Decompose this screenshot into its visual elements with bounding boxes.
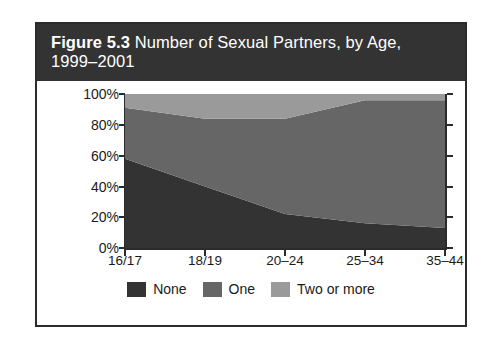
y-axis-tick bbox=[119, 247, 125, 249]
x-axis-labels: 16/1718/1920–2425–3435–44 bbox=[125, 253, 447, 273]
y-axis-tick bbox=[119, 216, 125, 218]
y-axis-tick bbox=[119, 124, 125, 126]
chart-legend: NoneOneTwo or more bbox=[37, 281, 465, 297]
y-axis-tick-label: 20% bbox=[91, 209, 119, 225]
y-axis-tick-right bbox=[447, 93, 453, 95]
y-axis-right-line bbox=[445, 94, 447, 250]
y-axis-tick-right bbox=[447, 186, 453, 188]
y-axis-tick-label: 80% bbox=[91, 117, 119, 133]
legend-swatch-icon bbox=[203, 282, 222, 297]
legend-label: One bbox=[229, 281, 255, 297]
y-axis-tick-label: 60% bbox=[91, 148, 119, 164]
x-axis-tick bbox=[204, 250, 206, 256]
legend-swatch-icon bbox=[127, 282, 146, 297]
stacked-area-plot bbox=[125, 94, 445, 248]
chart-container: 100%80%60%40%20%0% 16/1718/1920–2425–343… bbox=[37, 81, 465, 325]
figure-card: Figure 5.3 Number of Sexual Partners, by… bbox=[35, 22, 467, 327]
y-axis-tick-right bbox=[447, 247, 453, 249]
x-axis-tick bbox=[444, 250, 446, 256]
legend-item[interactable]: None bbox=[127, 281, 186, 297]
y-axis-tick-label: 100% bbox=[83, 86, 119, 102]
legend-label: Two or more bbox=[297, 281, 375, 297]
y-axis-tick bbox=[119, 155, 125, 157]
legend-label: None bbox=[153, 281, 186, 297]
y-axis-tick-right bbox=[447, 124, 453, 126]
legend-swatch-icon bbox=[271, 282, 290, 297]
legend-item[interactable]: One bbox=[203, 281, 255, 297]
x-axis-tick bbox=[124, 250, 126, 256]
y-axis-tick bbox=[119, 186, 125, 188]
x-axis-tick bbox=[284, 250, 286, 256]
y-axis-tick-right bbox=[447, 155, 453, 157]
y-axis-tick bbox=[119, 93, 125, 95]
figure-title-banner: Figure 5.3 Number of Sexual Partners, by… bbox=[37, 24, 465, 81]
y-axis-tick-label: 40% bbox=[91, 179, 119, 195]
stacked-area-svg bbox=[125, 94, 445, 248]
y-axis-labels: 100%80%60%40%20%0% bbox=[47, 81, 119, 263]
legend-item[interactable]: Two or more bbox=[271, 281, 375, 297]
x-axis-tick bbox=[364, 250, 366, 256]
y-axis-tick-right bbox=[447, 216, 453, 218]
figure-number: Figure 5.3 bbox=[51, 33, 130, 51]
